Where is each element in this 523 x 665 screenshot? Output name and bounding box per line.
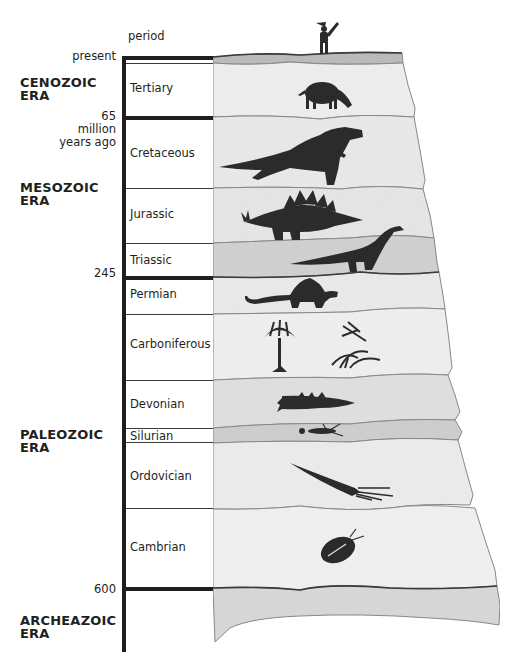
stratum-archeazoic bbox=[213, 586, 500, 642]
human-figure-icon bbox=[316, 22, 339, 54]
stratum-triassic bbox=[213, 236, 439, 278]
strata-illustration bbox=[0, 0, 523, 665]
stratum-ordovician bbox=[213, 438, 473, 509]
stratum-carboniferous bbox=[213, 308, 452, 380]
stratum-cambrian bbox=[213, 506, 497, 591]
